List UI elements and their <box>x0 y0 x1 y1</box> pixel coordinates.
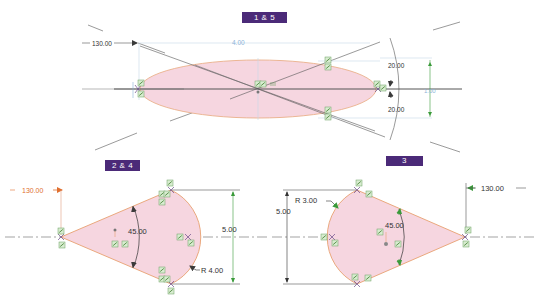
constraint-icon[interactable] <box>352 274 358 280</box>
dim-height-right[interactable]: 5.00 <box>276 207 291 216</box>
dim-upper-angle[interactable]: 20.00 <box>388 62 405 69</box>
dim-height[interactable]: 1.00 <box>424 88 436 94</box>
constraint-icon[interactable] <box>321 234 327 240</box>
dim-angle-ref-left[interactable]: 130.00 <box>22 187 44 194</box>
constraint-icon[interactable] <box>374 81 380 87</box>
view-label-bottom-right: 3 <box>386 156 423 166</box>
construction-line <box>430 142 460 152</box>
constraint-icon[interactable] <box>260 81 266 87</box>
constraint-icon[interactable] <box>164 276 170 282</box>
constraint-icon[interactable] <box>58 228 64 234</box>
constraint-icon[interactable] <box>159 199 165 205</box>
dim-radius-right[interactable]: R 3.00 <box>295 196 317 205</box>
construction-line <box>138 43 165 53</box>
dim-height-left[interactable]: 5.00 <box>222 225 237 234</box>
constraint-icon[interactable] <box>59 242 65 248</box>
constraint-icon[interactable] <box>159 267 165 273</box>
dim-radius-left[interactable]: R 4.00 <box>201 266 223 275</box>
bottom-right-view[interactable]: 130.00 45.00 5.00 R 3.00 <box>272 180 535 287</box>
sketch-canvas[interactable]: 130.00 4.00 20.00 20.00 1.00 <box>0 0 537 303</box>
constraint-icon[interactable] <box>167 180 173 186</box>
sector-profile-right[interactable] <box>327 190 465 284</box>
construction-line <box>95 133 137 150</box>
bottom-left-view[interactable]: 130.00 45.00 5.00 R 4.00 <box>5 180 268 294</box>
constraint-icon[interactable] <box>122 241 128 247</box>
constraint-icon[interactable] <box>177 234 183 240</box>
view-label-top: 1 & 5 <box>242 12 287 23</box>
constraint-icon[interactable] <box>377 229 383 235</box>
constraint-icon[interactable] <box>164 191 170 197</box>
dim-lower-angle[interactable]: 20.00 <box>388 106 405 113</box>
constraint-icon[interactable] <box>380 85 386 91</box>
constraint-icon[interactable] <box>332 240 338 246</box>
constraint-icon[interactable] <box>365 275 371 281</box>
construction-line <box>433 22 460 30</box>
constraint-icon[interactable] <box>112 241 118 247</box>
constraint-icon[interactable] <box>325 114 331 120</box>
dim-angle-ref-top[interactable]: 130.00 <box>92 40 112 47</box>
center-point[interactable] <box>384 242 388 246</box>
constraint-icon[interactable] <box>356 180 362 186</box>
center-point[interactable] <box>257 91 260 94</box>
top-view[interactable]: 130.00 4.00 20.00 20.00 1.00 <box>82 22 462 152</box>
constraint-icon[interactable] <box>465 227 471 233</box>
dim-sweep-angle-right[interactable]: 45.00 <box>385 221 404 230</box>
constraint-icon[interactable] <box>138 91 144 97</box>
constraint-icon[interactable] <box>366 191 372 197</box>
dim-angle-ref-right[interactable]: 130.00 <box>481 184 504 193</box>
construction-line <box>88 25 103 31</box>
constraint-icon[interactable] <box>325 64 331 70</box>
constraint-icon[interactable] <box>138 80 144 86</box>
dim-sweep-angle-left[interactable]: 45.00 <box>128 227 147 236</box>
constraint-icon[interactable] <box>463 241 469 247</box>
dim-length[interactable]: 4.00 <box>232 39 245 46</box>
constraint-icon[interactable] <box>168 288 174 294</box>
constraint-icon[interactable] <box>188 240 194 246</box>
constraint-icon[interactable] <box>325 57 331 63</box>
constraint-icon[interactable] <box>395 241 401 247</box>
view-label-bottom-left: 2 & 4 <box>105 160 140 171</box>
constraint-icon[interactable] <box>325 107 331 113</box>
